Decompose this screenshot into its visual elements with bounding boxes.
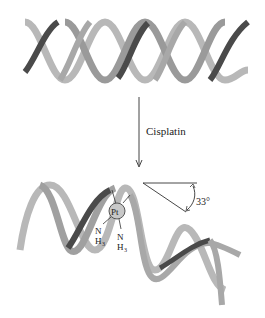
- nh3-right-sub: 3: [124, 247, 127, 253]
- nh3-right-n: N: [117, 232, 124, 242]
- reaction-arrow: [136, 97, 142, 167]
- angle-label: 33°: [196, 196, 210, 207]
- bend-angle-indicator: [143, 183, 197, 212]
- platinum-label: Pt: [111, 207, 119, 217]
- reagent-label: Cisplatin: [146, 125, 186, 137]
- nh3-left-h: H: [95, 236, 102, 246]
- straight-dna-helix: [25, 22, 248, 80]
- nh3-left-n: N: [95, 226, 102, 236]
- nh3-right-h: H: [117, 242, 124, 252]
- cisplatin-dna-diagram: Cisplatin Pt N H 3 N H 3 33°: [0, 0, 265, 318]
- nh3-left-sub: 3: [102, 241, 105, 247]
